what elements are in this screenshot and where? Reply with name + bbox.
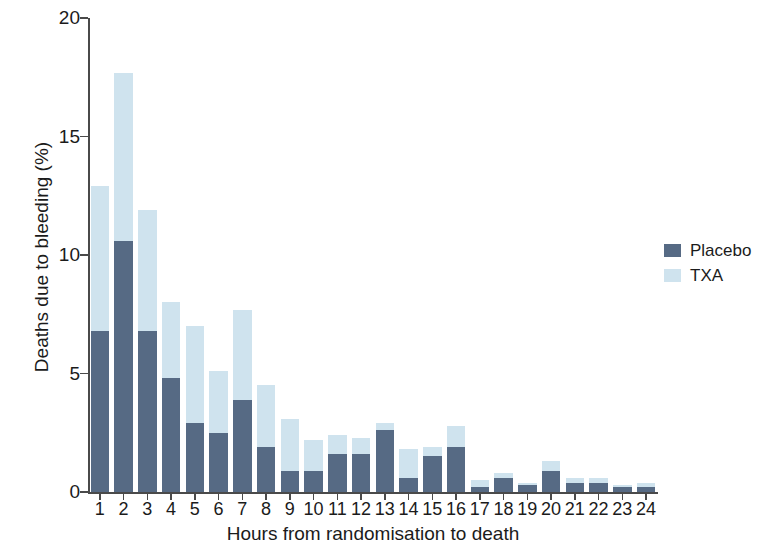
bar-segment-txa: [304, 440, 323, 471]
y-tick-label: 10: [46, 245, 80, 264]
bar-segment-placebo: [542, 471, 561, 492]
bar-group: [352, 438, 371, 492]
y-tick-mark: [80, 373, 88, 375]
bar-group: [257, 385, 276, 492]
x-tick-label: 20: [539, 500, 563, 520]
chart-legend: PlaceboTXA: [664, 238, 762, 288]
bar-segment-placebo: [494, 478, 513, 492]
bar-segment-txa: [91, 186, 110, 331]
bar-group: [138, 210, 157, 492]
x-tick-label: 11: [326, 500, 350, 520]
bar-group: [304, 440, 323, 492]
bar-segment-placebo: [518, 485, 537, 492]
legend-item: Placebo: [664, 238, 762, 263]
legend-item: TXA: [664, 263, 762, 288]
bar-group: [494, 473, 513, 492]
x-tick-label: 10: [302, 500, 326, 520]
x-tick-label: 5: [183, 500, 207, 520]
bar-group: [114, 73, 133, 492]
x-tick-label: 3: [136, 500, 160, 520]
x-tick-label: 1: [88, 500, 112, 520]
bar-segment-txa: [328, 435, 347, 454]
y-tick-mark: [80, 254, 88, 256]
bar-segment-placebo: [281, 471, 300, 492]
bar-segment-placebo: [91, 331, 110, 492]
bar-group: [566, 478, 585, 492]
x-tick-label: 18: [492, 500, 516, 520]
x-tick-label: 21: [563, 500, 587, 520]
bar-segment-placebo: [209, 433, 228, 492]
bar-segment-placebo: [328, 454, 347, 492]
legend-swatch-icon: [664, 269, 681, 282]
bar-segment-placebo: [613, 487, 632, 492]
y-tick-label: 0: [46, 482, 80, 501]
bar-segment-txa: [186, 326, 205, 423]
x-tick-label: 13: [373, 500, 397, 520]
bar-group: [589, 478, 608, 492]
bar-segment-placebo: [566, 483, 585, 492]
bar-segment-placebo: [257, 447, 276, 492]
x-axis-title: Hours from randomisation to death: [88, 523, 658, 545]
y-tick-mark: [80, 136, 88, 138]
x-tick-label: 2: [112, 500, 136, 520]
bar-segment-txa: [233, 310, 252, 400]
y-tick-mark: [80, 491, 88, 493]
bar-group: [233, 310, 252, 492]
bar-group: [518, 483, 537, 492]
y-tick-label: 20: [46, 8, 80, 27]
legend-label: Placebo: [690, 241, 751, 261]
y-tick-mark: [80, 17, 88, 19]
bar-segment-txa: [209, 371, 228, 433]
bar-segment-txa: [376, 423, 395, 430]
y-tick-label: 15: [46, 127, 80, 146]
bar-group: [613, 485, 632, 492]
x-tick-label: 16: [444, 500, 468, 520]
x-tick-label: 24: [634, 500, 658, 520]
y-tick-label: 5: [46, 364, 80, 383]
bar-segment-txa: [114, 73, 133, 241]
x-tick-label: 22: [587, 500, 611, 520]
x-tick-label: 12: [349, 500, 373, 520]
bar-group: [399, 449, 418, 492]
bar-segment-placebo: [233, 400, 252, 492]
x-tick-label: 4: [159, 500, 183, 520]
bar-segment-placebo: [376, 430, 395, 492]
bar-segment-placebo: [637, 487, 656, 492]
bar-segment-txa: [138, 210, 157, 331]
bar-segment-placebo: [304, 471, 323, 492]
bar-group: [91, 186, 110, 492]
x-tick-label: 15: [421, 500, 445, 520]
bar-chart-figure: Deaths due to bleeding (%) 05101520 1234…: [0, 0, 762, 553]
y-axis-line: [88, 18, 90, 493]
x-tick-label: 14: [397, 500, 421, 520]
bar-segment-placebo: [138, 331, 157, 492]
legend-swatch-icon: [664, 244, 681, 257]
y-tick: 20: [36, 18, 80, 19]
bar-group: [186, 326, 205, 492]
bar-group: [281, 419, 300, 492]
bar-segment-txa: [257, 385, 276, 447]
x-tick-label: 19: [516, 500, 540, 520]
bar-group: [328, 435, 347, 492]
x-tick-label: 7: [231, 500, 255, 520]
bar-group: [423, 447, 442, 492]
y-tick: 0: [36, 492, 80, 493]
y-tick: 10: [36, 255, 80, 256]
bar-segment-placebo: [114, 241, 133, 492]
y-tick: 15: [36, 137, 80, 138]
bar-segment-txa: [423, 447, 442, 456]
bar-segment-placebo: [589, 483, 608, 492]
bar-group: [376, 423, 395, 492]
bar-group: [471, 480, 490, 492]
bar-segment-txa: [471, 480, 490, 487]
x-axis-line: [88, 492, 658, 494]
bar-group: [542, 461, 561, 492]
bar-group: [209, 371, 228, 492]
bar-segment-placebo: [447, 447, 466, 492]
bar-segment-placebo: [423, 456, 442, 492]
bar-segment-txa: [281, 419, 300, 471]
bar-segment-txa: [162, 302, 181, 378]
bar-segment-txa: [399, 449, 418, 477]
bar-segment-placebo: [352, 454, 371, 492]
bar-segment-placebo: [162, 378, 181, 492]
